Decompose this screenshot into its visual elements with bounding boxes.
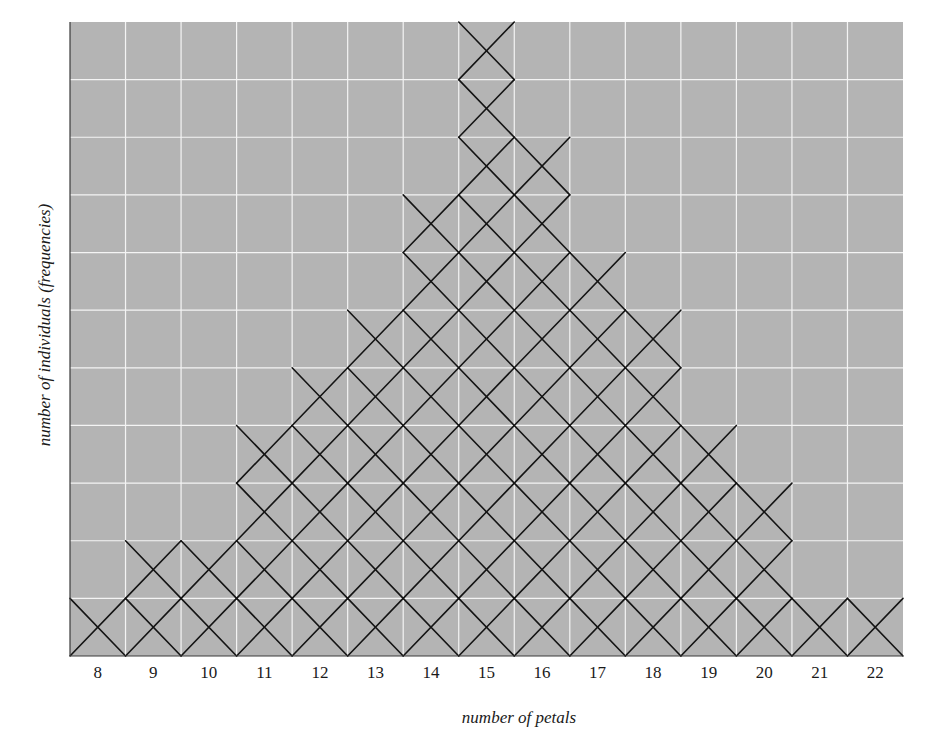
x-tick-label: 8 [94, 663, 103, 683]
x-tick-label: 22 [867, 663, 884, 683]
y-axis-title: number of individuals (frequencies) [35, 204, 55, 447]
x-tick-label: 21 [811, 663, 828, 683]
chart-plot-area [0, 0, 928, 738]
x-tick-label: 12 [311, 663, 328, 683]
x-axis-title: number of petals [462, 708, 576, 728]
x-tick-label: 13 [367, 663, 384, 683]
x-tick-label: 11 [256, 663, 272, 683]
x-tick-label: 20 [756, 663, 773, 683]
x-tick-label: 14 [422, 663, 439, 683]
x-tick-label: 15 [478, 663, 495, 683]
x-tick-label: 16 [534, 663, 551, 683]
x-tick-label: 18 [645, 663, 662, 683]
x-tick-label: 9 [149, 663, 158, 683]
x-tick-label: 10 [200, 663, 217, 683]
x-tick-label: 19 [700, 663, 717, 683]
petal-frequency-chart: number of individuals (frequencies) numb… [0, 0, 928, 738]
x-tick-label: 17 [589, 663, 606, 683]
